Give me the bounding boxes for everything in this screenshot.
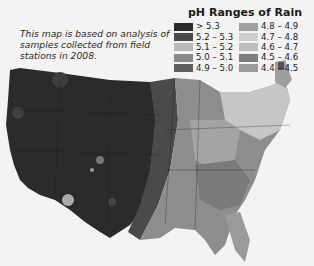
map-caption: This map is based on analysis of samples… [20, 28, 170, 61]
legend-swatch [174, 43, 193, 51]
legend-item: 4.4 – 4.5 [239, 64, 298, 73]
legend-item: > 5.3 [174, 22, 233, 31]
legend-swatch [174, 33, 193, 41]
legend-swatch [239, 23, 258, 31]
legend-swatch [174, 64, 193, 72]
legend-item: 5.0 – 5.1 [174, 53, 233, 62]
legend-item: 4.7 – 4.8 [239, 32, 298, 41]
legend-item: 5.1 – 5.2 [174, 43, 233, 52]
legend-swatch [174, 54, 193, 62]
legend-item: 4.6 – 4.7 [239, 43, 298, 52]
legend: pH Ranges of Rain > 5.3 5.2 – 5.3 5.1 – … [174, 6, 314, 73]
legend-item: 4.5 – 4.6 [239, 53, 298, 62]
legend-swatch [239, 33, 258, 41]
legend-column-right: 4.8 – 4.9 4.7 – 4.8 4.6 – 4.7 4.5 – 4.6 … [239, 22, 298, 73]
legend-swatch [239, 43, 258, 51]
legend-title: pH Ranges of Rain [188, 6, 314, 19]
legend-item: 4.8 – 4.9 [239, 22, 298, 31]
legend-swatch [239, 54, 258, 62]
legend-item: 5.2 – 5.3 [174, 32, 233, 41]
legend-item: 4.9 – 5.0 [174, 64, 233, 73]
legend-column-left: > 5.3 5.2 – 5.3 5.1 – 5.2 5.0 – 5.1 4.9 … [174, 22, 233, 73]
map-band-florida [225, 212, 250, 262]
legend-swatch [239, 64, 258, 72]
legend-swatch [174, 23, 193, 31]
